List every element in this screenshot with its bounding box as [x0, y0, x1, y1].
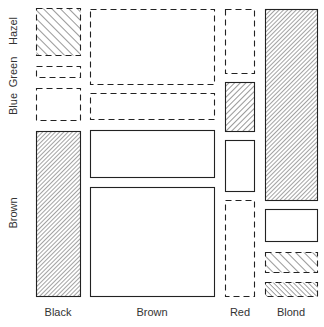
tile-brown-green: [91, 94, 215, 120]
tile-hatch-black-brown: [37, 132, 81, 297]
tile-red-brown: [226, 201, 255, 297]
mosaic-plot-area: [0, 0, 324, 327]
tile-brown-hazel: [91, 10, 215, 85]
x-label-brown: Brown: [122, 306, 182, 318]
tile-blond-green: [266, 210, 318, 242]
tile-hatch-blond-blue: [266, 253, 318, 273]
tile-brown-brown: [91, 188, 215, 297]
mosaic-chart: Hazel Green Blue Brown Black Brown Red B…: [0, 0, 324, 327]
tile-hatch-red-green: [226, 83, 255, 132]
tile-red-hazel: [226, 10, 255, 74]
tile-hatch-blond-brown: [266, 283, 318, 297]
x-label-blond: Blond: [261, 306, 321, 318]
tile-hatch-blond-hazel: [266, 10, 318, 201]
mosaic-tiles: [37, 9, 318, 297]
y-label-blue: Blue: [6, 74, 20, 134]
tile-black-green: [37, 67, 81, 78]
tile-brown-blue: [91, 131, 215, 178]
x-label-black: Black: [28, 306, 88, 318]
tile-black-blue: [37, 89, 81, 121]
tile-red-blue: [226, 141, 255, 192]
y-label-brown: Brown: [6, 183, 20, 243]
tile-hatch-black-hazel: [37, 9, 81, 56]
